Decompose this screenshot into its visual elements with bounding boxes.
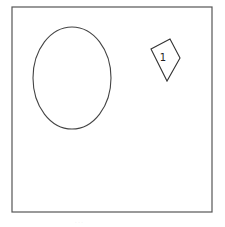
ellipse-shape (33, 27, 111, 129)
caption-text: · · · (75, 219, 83, 225)
kite-label: 1 (160, 52, 166, 63)
diagram-frame (12, 7, 212, 212)
diagram-canvas: 1 (0, 0, 225, 227)
